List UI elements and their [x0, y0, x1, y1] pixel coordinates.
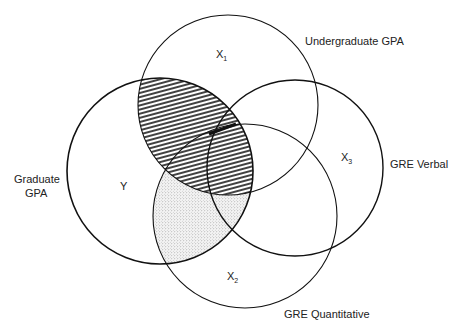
venn-diagram: X1 Y X3 X2 Undergraduate GPA Graduate GP… — [0, 0, 459, 332]
variable-y: Y — [120, 180, 128, 192]
variable-x1: X1 — [216, 48, 227, 62]
variable-x3: X3 — [341, 151, 352, 165]
label-undergraduate-gpa: Undergraduate GPA — [305, 35, 405, 47]
hatched-region — [138, 15, 318, 195]
variable-x2: X2 — [227, 270, 238, 284]
label-gre-verbal: GRE Verbal — [390, 158, 448, 170]
label-graduate-gpa-line2: GPA — [25, 187, 48, 199]
label-gre-quantitative: GRE Quantitative — [284, 308, 370, 320]
label-graduate-gpa-line1: Graduate — [14, 173, 60, 185]
